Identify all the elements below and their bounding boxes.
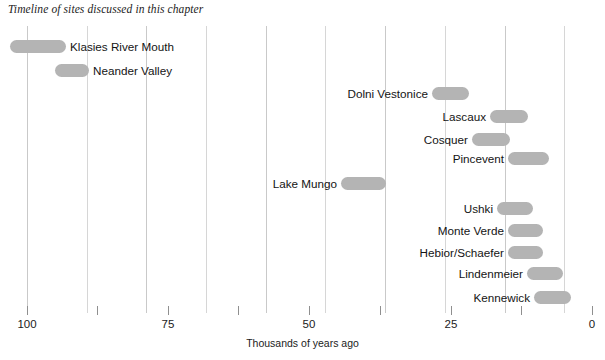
- timeline-label-neander-valley: Neander Valley: [93, 63, 172, 78]
- timeline-label-klasies-river-mouth: Klasies River Mouth: [70, 39, 174, 54]
- timeline-label-lascaux: Lascaux: [442, 109, 486, 124]
- x-axis-tick-label: 0: [589, 318, 595, 330]
- x-axis-tick-label: 25: [445, 318, 458, 330]
- timeline-bar-kennewick[interactable]: [534, 291, 571, 304]
- x-axis-title: Thousands of years ago: [0, 337, 605, 349]
- timeline-chart: Timeline of sites discussed in this chap…: [0, 0, 605, 360]
- timeline-row-lindenmeier: Lindenmeier: [0, 265, 605, 283]
- timeline-row-neander-valley: Neander Valley: [0, 62, 605, 80]
- timeline-row-dolni-vestonice: Dolni Vestonice: [0, 85, 605, 103]
- x-axis-tick: [27, 306, 28, 315]
- x-axis-tick-label: 100: [17, 318, 36, 330]
- timeline-bar-cosquer[interactable]: [472, 133, 510, 146]
- timeline-bar-pincevent[interactable]: [508, 152, 549, 165]
- timeline-row-monte-verde: Monte Verde: [0, 222, 605, 240]
- timeline-label-kennewick: Kennewick: [473, 290, 530, 305]
- x-axis-minor-tick: [521, 306, 522, 315]
- timeline-label-pincevent: Pincevent: [453, 151, 504, 166]
- timeline-row-lake-mungo: Lake Mungo: [0, 175, 605, 193]
- timeline-label-hebior-schaefer: Hebior/Schaefer: [420, 245, 504, 260]
- timeline-bar-lascaux[interactable]: [490, 110, 528, 123]
- x-axis-minor-tick: [97, 306, 98, 315]
- timeline-label-lake-mungo: Lake Mungo: [273, 176, 337, 191]
- x-axis-tick: [592, 306, 593, 315]
- timeline-row-lascaux: Lascaux: [0, 108, 605, 126]
- timeline-row-klasies-river-mouth: Klasies River Mouth: [0, 38, 605, 56]
- x-axis-tick-label: 50: [303, 318, 316, 330]
- timeline-row-cosquer: Cosquer: [0, 131, 605, 149]
- plot-area: Klasies River MouthNeander ValleyDolni V…: [0, 0, 605, 360]
- timeline-bar-lindenmeier[interactable]: [527, 267, 563, 280]
- timeline-label-ushki: Ushki: [464, 201, 493, 216]
- timeline-row-pincevent: Pincevent: [0, 150, 605, 168]
- timeline-bar-neander-valley[interactable]: [55, 64, 89, 77]
- timeline-label-monte-verde: Monte Verde: [438, 223, 504, 238]
- x-axis-tick: [168, 306, 169, 315]
- timeline-label-dolni-vestonice: Dolni Vestonice: [347, 86, 428, 101]
- timeline-label-lindenmeier: Lindenmeier: [459, 266, 523, 281]
- timeline-bar-dolni-vestonice[interactable]: [432, 87, 469, 100]
- timeline-bar-monte-verde[interactable]: [508, 224, 543, 237]
- timeline-label-cosquer: Cosquer: [424, 132, 468, 147]
- timeline-row-hebior-schaefer: Hebior/Schaefer: [0, 244, 605, 262]
- x-axis-tick: [309, 306, 310, 315]
- timeline-row-ushki: Ushki: [0, 200, 605, 218]
- x-axis-minor-tick: [380, 306, 381, 315]
- timeline-bar-klasies-river-mouth[interactable]: [10, 40, 66, 53]
- x-axis-tick-label: 75: [162, 318, 175, 330]
- x-axis-tick: [451, 306, 452, 315]
- x-axis-minor-tick: [238, 306, 239, 315]
- timeline-bar-hebior-schaefer[interactable]: [508, 246, 543, 259]
- timeline-bar-lake-mungo[interactable]: [341, 177, 386, 190]
- timeline-bar-ushki[interactable]: [497, 202, 533, 215]
- timeline-row-kennewick: Kennewick: [0, 289, 605, 307]
